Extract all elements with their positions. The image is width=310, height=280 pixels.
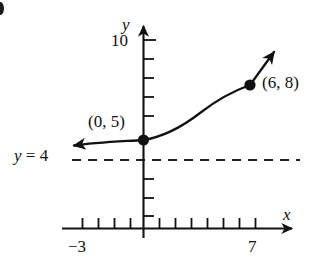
y-tick-label-10: 10 bbox=[111, 32, 128, 49]
asymptote-label-value: = 4 bbox=[22, 146, 49, 165]
plot-canvas bbox=[0, 0, 310, 280]
data-point-0-5 bbox=[138, 134, 149, 145]
point-label-6-8: (6, 8) bbox=[262, 74, 299, 91]
graph-figure: y 10 x −3 7 (0, 5) (6, 8) y = 4 bbox=[0, 0, 310, 280]
point-label-0-5: (0, 5) bbox=[88, 113, 125, 130]
x-axis-label: x bbox=[283, 206, 291, 223]
x-tick-label-7: 7 bbox=[248, 238, 257, 255]
asymptote-label: y = 4 bbox=[14, 147, 48, 164]
x-axis-ticks bbox=[83, 218, 256, 229]
y-axis-ticks bbox=[144, 40, 157, 216]
asymptote-label-variable: y bbox=[14, 146, 22, 165]
data-point-6-8 bbox=[244, 79, 255, 90]
x-tick-label-neg3: −3 bbox=[68, 238, 86, 255]
